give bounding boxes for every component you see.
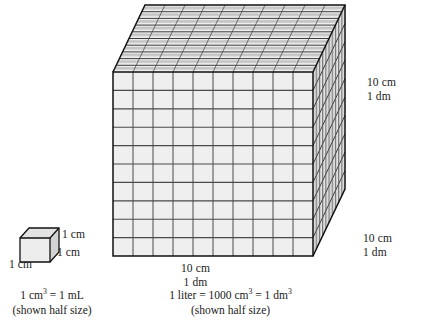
label-big-cube-width: 10 cm 1 dm [181, 262, 210, 289]
caption-small-cube-note: (shown half size) [2, 303, 102, 318]
caption-big-cube: 1 liter = 1000 cm3 = 1 dm3 (shown half s… [108, 288, 353, 317]
volume-diagram-svg [0, 0, 433, 326]
label-big-cube-depth-cm: 10 cm [363, 232, 392, 246]
label-big-cube-height: 10 cm 1 dm [367, 76, 396, 103]
caption-small-cube-equation-prefix: 1 cm [20, 289, 43, 301]
caption-small-cube: 1 cm3 = 1 mL (shown half size) [2, 288, 102, 317]
caption-big-cube-note: (shown half size) [108, 303, 353, 318]
label-small-cube-width: 1 cm [9, 258, 32, 272]
caption-big-cube-equation-prefix: 1 liter = 1000 cm [169, 289, 248, 301]
label-small-cube-depth: 1 cm [57, 246, 80, 260]
label-big-cube-width-cm: 10 cm [181, 262, 210, 276]
label-big-cube-width-dm: 1 dm [181, 276, 210, 290]
liter-cube-group [113, 5, 345, 256]
label-big-cube-depth: 10 cm 1 dm [363, 232, 392, 259]
figure-canvas: 10 cm 1 dm 10 cm 1 dm 10 cm 1 dm 1 cm 1 … [0, 0, 433, 326]
cubic-centimeter-cube-group [20, 228, 59, 262]
caption-small-cube-equation: 1 cm3 = 1 mL [2, 288, 102, 303]
label-big-cube-height-cm: 10 cm [367, 76, 396, 90]
caption-big-cube-equation-exponent-2: 3 [288, 287, 292, 296]
label-big-cube-depth-dm: 1 dm [363, 246, 392, 260]
label-big-cube-height-dm: 1 dm [367, 90, 396, 104]
label-small-cube-height: 1 cm [62, 228, 85, 242]
caption-small-cube-equation-suffix: = 1 mL [47, 289, 84, 301]
caption-big-cube-equation-middle: = 1 dm [252, 289, 288, 301]
caption-big-cube-equation: 1 liter = 1000 cm3 = 1 dm3 [108, 288, 353, 303]
